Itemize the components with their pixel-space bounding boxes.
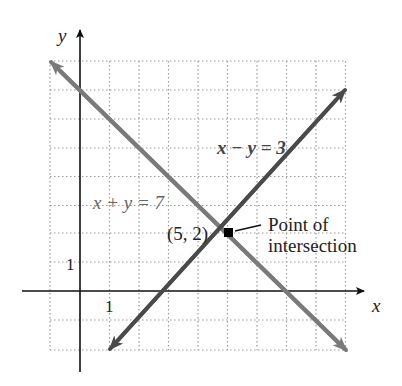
annotation-line-1: Point of xyxy=(268,214,329,235)
intersection-coordinates-label: (5, 2) xyxy=(167,223,208,245)
label-x-plus-y-equals-7: x + y = 7 xyxy=(92,192,166,213)
graph-figure: y x x 1 1 x + y = 7 x − y = 3 (5, 2) Poi… xyxy=(0,0,402,386)
x-tick-label: 1 xyxy=(105,297,114,316)
coordinate-plane: y x x 1 1 x + y = 7 x − y = 3 (5, 2) Poi… xyxy=(0,0,402,386)
x-axis-label-text: x xyxy=(371,295,381,316)
annotation-line-2: intersection xyxy=(268,235,357,256)
intersection-point xyxy=(224,228,233,237)
label-x-minus-y-equals-3: x − y = 3 xyxy=(216,137,286,158)
y-tick-label: 1 xyxy=(66,255,75,274)
y-axis-label: y xyxy=(56,25,67,46)
